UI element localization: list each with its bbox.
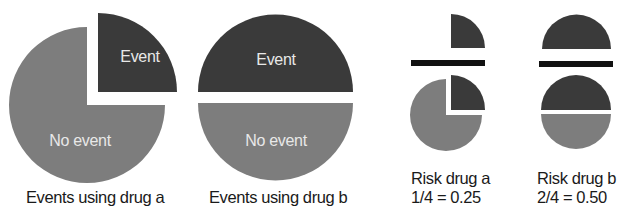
fraction-bar — [411, 60, 485, 66]
caption-risk-drug-a: Risk drug a — [411, 169, 490, 187]
denominator-event-slice — [451, 75, 485, 110]
numerator-event-slice — [542, 15, 611, 50]
formula-risk-drug-a: 1/4 = 0.25 — [411, 188, 481, 206]
risk-diagram: Event No event Event No event — [0, 0, 623, 213]
formula-risk-drug-b: 2/4 = 0.50 — [537, 188, 607, 206]
no-event-label: No event — [245, 132, 307, 149]
denominator-event-slice — [541, 75, 611, 110]
event-label: Event — [120, 48, 160, 65]
denominator-no-event-slice — [541, 114, 611, 149]
pie-drug-b: Event No event — [198, 14, 353, 180]
fraction-bar — [539, 61, 613, 67]
pie-drug-a: Event No event — [9, 13, 177, 183]
caption-risk-drug-b: Risk drug b — [537, 169, 616, 187]
event-label: Event — [256, 51, 296, 68]
fraction-drug-a — [410, 14, 485, 151]
fraction-drug-b — [539, 15, 613, 150]
no-event-label: No event — [49, 132, 111, 149]
caption-events-drug-a: Events using drug a — [26, 188, 164, 206]
caption-events-drug-b: Events using drug b — [209, 188, 347, 206]
numerator-event-slice — [451, 14, 485, 48]
